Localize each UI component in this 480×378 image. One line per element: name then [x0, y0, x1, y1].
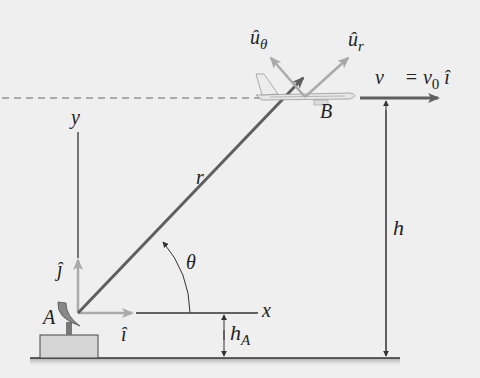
airplane-icon	[256, 74, 355, 105]
radar-dish-icon	[58, 302, 80, 335]
i-hat-label: î	[121, 323, 127, 346]
velocity-symbol: v⃗ = v	[375, 66, 432, 88]
j-hat-label: ĵ	[57, 258, 63, 281]
u-theta-symbol: û	[250, 26, 260, 48]
r-vector-label: r⃗	[196, 166, 219, 189]
ha-subscript: A	[241, 332, 250, 348]
u-r-subscript: r	[358, 38, 364, 54]
u-theta-label: ûθ	[250, 26, 267, 53]
u-r-vector	[305, 58, 348, 97]
point-a-label: A	[43, 306, 55, 329]
velocity-label: v⃗ = v0 î	[375, 66, 450, 93]
velocity-unit: î	[439, 66, 450, 88]
u-r-symbol: û	[348, 28, 358, 50]
h-label: h	[393, 215, 404, 241]
position-vector-r	[78, 78, 303, 313]
y-axis-label: y	[71, 106, 80, 129]
ground-shadow	[30, 358, 400, 366]
u-r-label: ûr	[348, 28, 364, 55]
point-b-label: B	[320, 100, 332, 123]
u-theta-subscript: θ	[260, 36, 267, 52]
radar-base-block	[40, 335, 98, 358]
ha-label: hA	[230, 320, 250, 349]
ha-symbol: h	[230, 320, 241, 345]
theta-label: θ	[186, 251, 196, 274]
x-axis-label: x	[262, 299, 271, 322]
